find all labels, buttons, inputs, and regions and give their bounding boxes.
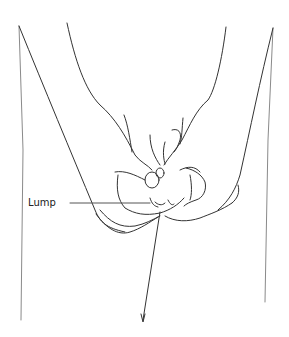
left-lower-hand-2: [96, 214, 158, 233]
right-outer-body-line: [265, 28, 273, 302]
line-drawing: [0, 0, 289, 337]
knuckle-ring-2: [156, 168, 164, 178]
left-finger-1: [124, 115, 132, 152]
left-outer-body-line: [19, 26, 23, 320]
inner-folds: [150, 198, 174, 207]
left-hand-back: [115, 172, 145, 180]
finger-2: [150, 135, 160, 165]
lump-label: Lump: [28, 197, 56, 209]
knuckle-ring-1: [145, 172, 159, 188]
finger-3: [163, 142, 165, 164]
right-arm: [164, 27, 226, 165]
right-palm-line: [190, 175, 192, 200]
left-hand-cup: [117, 175, 184, 214]
midline: [143, 212, 160, 320]
right-hand-cup: [184, 168, 206, 206]
right-inner-leg-line: [218, 28, 273, 210]
left-lower-hand: [100, 210, 160, 226]
finger-4: [172, 129, 181, 152]
left-arm: [67, 23, 152, 170]
illustration-canvas: Lump: [0, 0, 289, 337]
